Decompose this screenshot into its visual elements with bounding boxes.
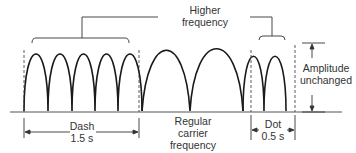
amplitude-label: Amplitude unchanged [296,62,356,86]
carrier-label: Regular carrier frequency [160,115,226,151]
dot-waveform [243,56,286,111]
dot-label: Dot 0.5 s [256,118,290,142]
dash-label: Dash 1.5 s [64,120,100,144]
carrier-waveform [142,49,243,111]
higher-frequency-label: Higher frequency [160,4,250,28]
dash-waveform [24,54,142,111]
